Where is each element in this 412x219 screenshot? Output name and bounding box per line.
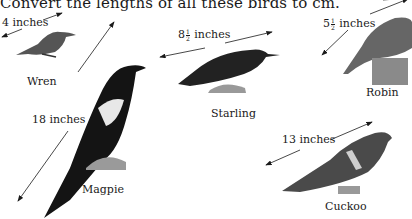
robin-arrow-top <box>370 0 408 14</box>
starling-length-label: 812 inches <box>178 28 230 42</box>
robin-arrow-bottom <box>322 30 348 55</box>
starling-length-whole: 8 <box>178 28 185 41</box>
wren-arrow-left <box>2 29 22 37</box>
starling-arrow-right <box>225 32 272 43</box>
starling-arrow-left <box>160 48 205 57</box>
robin-length-whole: 5 <box>323 17 330 30</box>
starling-image <box>178 50 280 94</box>
magpie-name: Magpie <box>82 183 124 196</box>
magpie-length-label: 18 inches <box>32 113 86 126</box>
cuckoo-name: Cuckoo <box>325 200 367 213</box>
robin-length-label: 512 inches <box>323 17 375 31</box>
robin-length-fraction: 12 <box>331 18 335 31</box>
magpie-arrow-top <box>78 22 114 72</box>
starling-name: Starling <box>211 107 256 120</box>
starling-length-fraction: 12 <box>186 29 190 42</box>
wren-name: Wren <box>27 75 57 88</box>
wren-image <box>16 32 76 57</box>
cuckoo-length-label: 13 inches <box>282 133 336 146</box>
cuckoo-arrow-left <box>266 150 300 165</box>
wren-length-label: 4 inches <box>2 16 49 29</box>
robin-name: Robin <box>366 86 399 99</box>
